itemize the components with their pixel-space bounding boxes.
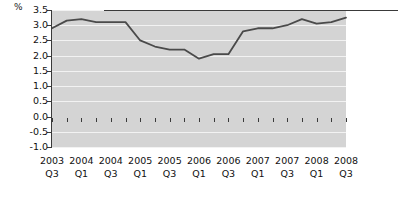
y-tick-label: 3.0 (33, 20, 48, 30)
x-tick-label-quarter: Q3 (329, 167, 363, 180)
x-tick-mark (52, 118, 53, 122)
x-tick-mark (331, 118, 332, 122)
gridline (52, 147, 346, 148)
x-tick-mark (317, 118, 318, 122)
x-tick-mark (273, 118, 274, 122)
x-tick-mark (228, 118, 229, 122)
y-tick-label: 3.5 (33, 5, 48, 15)
y-tick-label: 0.5 (33, 96, 48, 106)
x-tick-mark (346, 118, 347, 122)
plot-area (52, 10, 346, 147)
x-tick-mark (111, 118, 112, 122)
x-tick-mark (199, 118, 200, 122)
x-axis-labels: 2003Q32004Q12004Q32005Q12005Q32006Q12006… (0, 154, 356, 194)
x-tick-mark (155, 118, 156, 122)
x-tick-mark (140, 118, 141, 122)
x-tick-mark (302, 118, 303, 122)
y-tick-label: 0.0 (33, 112, 48, 122)
zero-axis-line (104, 10, 398, 11)
x-tick-mark (126, 118, 127, 122)
x-tick-mark (214, 118, 215, 122)
x-tick-mark (67, 118, 68, 122)
series-line (52, 10, 346, 147)
y-tick-label: 1.5 (33, 66, 48, 76)
y-tick-label: -0.5 (29, 127, 48, 137)
x-tick-mark (81, 118, 82, 122)
x-tick-mark (170, 118, 171, 122)
x-tick-label: 2008Q3 (329, 154, 363, 180)
x-tick-label-year: 2008 (329, 154, 363, 167)
y-tick-label: 1.0 (33, 81, 48, 91)
y-tick-label: 2.0 (33, 51, 48, 61)
x-tick-mark (287, 118, 288, 122)
y-tick-label: -1.0 (29, 142, 48, 152)
y-axis-unit-label: % (14, 2, 23, 12)
y-axis-line (51, 10, 52, 148)
x-tick-mark (258, 118, 259, 122)
x-tick-mark (184, 118, 185, 122)
x-tick-mark (96, 118, 97, 122)
y-tick-label: 2.5 (33, 35, 48, 45)
x-tick-mark (243, 118, 244, 122)
